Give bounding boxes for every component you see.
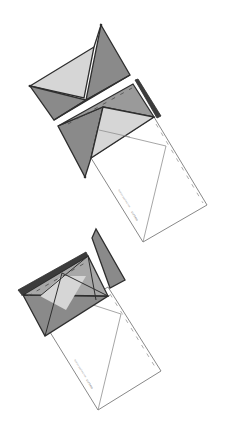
diagram-canvas: fold on dashed line cut here fold on das… xyxy=(0,0,230,433)
step-3-side-flaps: fold on dashed line cut here xyxy=(18,229,161,410)
